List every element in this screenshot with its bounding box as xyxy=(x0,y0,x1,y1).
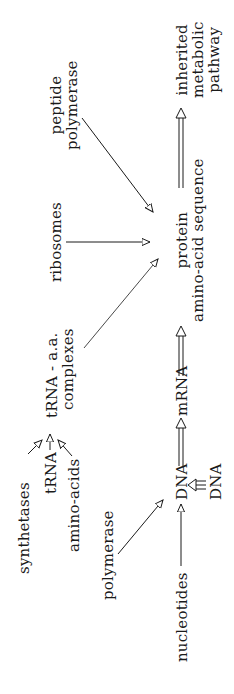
node-peptide-polymerase: peptide polymerase xyxy=(48,60,80,150)
arrow-peptide-polymerase-to-protein xyxy=(82,118,153,212)
arrow-dna-to-mrna xyxy=(176,418,186,466)
peptide-line1: peptide xyxy=(48,60,64,150)
pathway-line1: inherited xyxy=(174,22,190,99)
pathway-line3: pathway xyxy=(206,22,222,99)
node-ribosomes: ribosomes xyxy=(48,202,64,282)
trna-aa-line2: complexes xyxy=(60,328,76,418)
trna-aa-line1: tRNA - a.a. xyxy=(44,328,60,418)
node-dna-template: DNA xyxy=(208,463,224,500)
node-polymerase: polymerase xyxy=(100,510,116,600)
arrow-complexes-to-protein xyxy=(84,259,158,348)
node-trna: tRNA xyxy=(43,452,59,494)
arrow-polymerase-to-dna xyxy=(118,500,163,554)
peptide-line2: polymerase xyxy=(64,60,80,150)
node-protein: protein amino-acid sequence xyxy=(174,158,206,322)
arrow-aminoacids-to-complexes xyxy=(58,440,72,456)
protein-line1: protein xyxy=(174,158,190,322)
pathway-line2: metabolic xyxy=(190,22,206,99)
node-dna: DNA xyxy=(174,463,190,500)
protein-line2: amino-acid sequence xyxy=(190,158,206,322)
node-synthetases: synthetases xyxy=(16,482,32,574)
node-inherited-pathway: inherited metabolic pathway xyxy=(174,22,222,99)
node-mrna: mRNA xyxy=(174,366,190,416)
arrow-synthetases-to-complexes xyxy=(28,440,42,454)
node-trna-aa-complexes: tRNA - a.a. complexes xyxy=(44,328,76,418)
arrow-layer xyxy=(0,0,234,694)
diagram-canvas: synthetases tRNA amino-acids tRNA - a.a.… xyxy=(0,0,234,694)
node-nucleotides: nucleotides xyxy=(174,572,190,662)
node-amino-acids: amino-acids xyxy=(66,459,82,552)
